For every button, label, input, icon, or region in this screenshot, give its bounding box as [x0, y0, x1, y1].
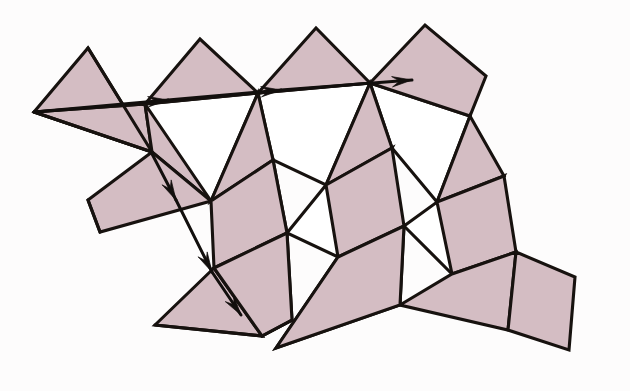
tiling-diagram: [0, 0, 630, 391]
figure-root: [0, 0, 630, 391]
